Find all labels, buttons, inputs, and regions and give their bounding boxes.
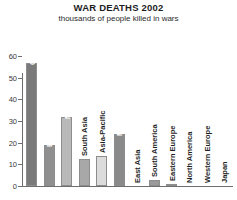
y-tick-mark — [18, 99, 22, 100]
y-tick-mark — [18, 56, 22, 57]
bar-slot[interactable]: Northern Africa — [58, 56, 76, 186]
bar-slot[interactable]: South America — [146, 56, 164, 186]
bar[interactable] — [26, 63, 37, 187]
bar-slot[interactable]: Japan — [216, 56, 234, 186]
bar[interactable] — [61, 117, 72, 186]
y-tick-label: 20 — [9, 138, 17, 147]
bar-category-label: Central Africa — [28, 16, 36, 65]
bar[interactable] — [166, 184, 177, 186]
bar-slot[interactable]: E. and S. Africa — [41, 56, 59, 186]
bar-slot[interactable]: Asia-Pacific — [93, 56, 111, 186]
y-tick-mark — [18, 143, 22, 144]
bar-category-label: South America — [151, 124, 159, 177]
bar-slot[interactable]: Western Europe — [198, 56, 216, 186]
bar-category-label: Eastern Europe — [168, 126, 176, 181]
bar-category-label: Japan — [221, 161, 229, 183]
bar-category-label: Asia-Pacific — [98, 110, 106, 153]
bar-slot[interactable]: East Asia — [128, 56, 146, 186]
bar[interactable] — [79, 159, 90, 186]
y-tick-label: 50 — [9, 73, 17, 82]
y-tick-mark — [18, 186, 22, 187]
bar-category-label: E. and S. Africa — [46, 92, 54, 147]
bar-series: Central AfricaE. and S. AfricaNorthern A… — [23, 56, 233, 186]
bar-category-label: Northern Africa — [63, 64, 71, 119]
bar-slot[interactable]: Central Africa — [23, 56, 41, 186]
bar-slot[interactable]: Eastern Europe — [163, 56, 181, 186]
bar[interactable] — [149, 180, 160, 187]
bar-category-label: Middle East — [116, 94, 124, 136]
x-axis-line — [22, 186, 233, 187]
bar-category-label: South Asia — [81, 117, 89, 156]
bar[interactable] — [44, 145, 55, 186]
y-tick-label: 60 — [9, 52, 17, 61]
bar-slot[interactable]: South Asia — [76, 56, 94, 186]
y-tick-mark — [18, 78, 22, 79]
y-tick-label: 30 — [9, 117, 17, 126]
bar-slot[interactable]: North America — [181, 56, 199, 186]
bar[interactable] — [96, 156, 107, 186]
bar-category-label: Western Europe — [203, 126, 211, 183]
bar-category-label: North America — [186, 132, 194, 183]
bar[interactable] — [114, 134, 125, 186]
y-tick-mark — [18, 121, 22, 122]
y-tick-mark — [18, 164, 22, 165]
plot-area: 0102030405060 Central AfricaE. and S. Af… — [22, 55, 233, 187]
y-tick-label: 40 — [9, 95, 17, 104]
page-title: WAR DEATHS 2002 — [0, 2, 237, 13]
y-tick-label: 10 — [9, 160, 17, 169]
y-tick-label: 0 — [13, 182, 17, 191]
chart-page: WAR DEATHS 2002 thousands of people kill… — [0, 0, 237, 200]
bar-category-label: East Asia — [133, 150, 141, 184]
bar-slot[interactable]: Middle East — [111, 56, 129, 186]
